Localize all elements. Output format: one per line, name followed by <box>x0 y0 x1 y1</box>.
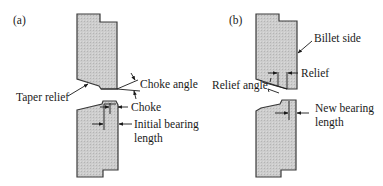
panel-a: (a) Choke angle Taper relief Choke Initi… <box>13 14 199 177</box>
panel-b-new-bearing-label-1: New bearing <box>315 102 374 115</box>
panel-b-label: (b) <box>229 14 243 27</box>
panel-a-choke-label: Choke <box>131 101 161 113</box>
panel-a-label: (a) <box>13 14 26 27</box>
panel-a-choke-angle-line-1 <box>117 80 138 89</box>
panel-a-taper-relief-label: Taper relief <box>16 91 69 104</box>
panel-b-billet-side-label: Billet side <box>314 32 361 44</box>
panel-b-lower-die <box>256 100 296 177</box>
panel-a-upper-die <box>77 14 117 89</box>
panel-a-choke-angle-arrow-1 <box>131 73 135 80</box>
panel-b-relief-label: Relief <box>301 67 329 79</box>
die-bearing-diagram: (a) Choke angle Taper relief Choke Initi… <box>0 0 383 186</box>
panel-a-choke-angle-line-2 <box>117 89 140 91</box>
panel-a-initial-bearing-label-1: Initial bearing <box>134 118 199 131</box>
panel-a-choke-angle-arrow-2 <box>134 91 136 99</box>
panel-b-new-bearing-label-2: length <box>315 116 344 129</box>
panel-b: (b) Billet side Relief Relief angle New … <box>212 14 374 177</box>
panel-a-taper-relief-arrow <box>68 84 88 96</box>
panel-a-lower-die <box>77 101 118 177</box>
panel-b-relief-angle-mark <box>268 89 279 93</box>
panel-b-billet-side-arrow <box>298 41 312 53</box>
panel-a-choke-angle-label: Choke angle <box>140 78 198 91</box>
panel-b-upper-die <box>256 14 297 89</box>
panel-b-relief-angle-label: Relief angle <box>212 79 268 92</box>
panel-a-initial-bearing-label-2: length <box>134 132 163 145</box>
